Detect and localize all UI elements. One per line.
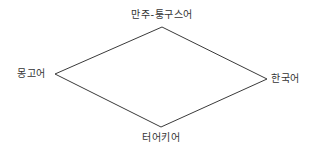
edge-left-bottom [55, 74, 161, 127]
node-label-left: 몽고어 [17, 68, 46, 80]
edge-top-right [162, 27, 267, 79]
node-label-bottom: 터어키어 [142, 132, 180, 144]
node-label-right: 한국어 [271, 73, 300, 85]
edge-right-bottom [161, 79, 267, 127]
node-label-top: 만주-퉁구스어 [131, 9, 192, 21]
language-relationship-diagram: 만주-퉁구스어 몽고어 한국어 터어키어 [0, 0, 320, 154]
edge-top-left [55, 27, 162, 74]
